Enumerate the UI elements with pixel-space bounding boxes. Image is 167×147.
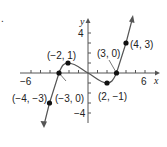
label-point-neg2-1: (−2, 1) [47, 50, 76, 61]
label-point-neg3-0: (−3, 0) [55, 93, 84, 104]
y-axis-arrow-icon [86, 18, 91, 23]
point-neg3-0 [56, 70, 61, 75]
label-point-2-neg1: (2, −1) [98, 91, 127, 102]
y-tick-label-neg4: −4 [74, 108, 86, 119]
function-graph: . [0, 0, 167, 147]
curve-arrow-up-icon [129, 15, 135, 23]
y-tick-label-4: 4 [78, 28, 84, 39]
curve-arrow-down-icon [41, 121, 48, 128]
point-neg2-1 [65, 60, 70, 65]
axes [20, 18, 160, 123]
x-tick-label-neg6: −6 [20, 76, 32, 87]
x-axis-label: x [153, 75, 159, 86]
y-axis-label: y [79, 16, 85, 27]
x-tick-label-6: 6 [141, 76, 147, 87]
label-point-3-0: (3, 0) [97, 48, 120, 59]
point-4-3 [123, 40, 128, 45]
label-point-4-3: (4, 3) [130, 39, 153, 50]
point-neg4-neg3 [47, 100, 52, 105]
label-point-neg4-neg3: (−4, −3) [12, 93, 47, 104]
point-3-0 [114, 70, 119, 75]
point-2-neg1 [104, 80, 109, 85]
figure-marker: . [1, 13, 4, 24]
